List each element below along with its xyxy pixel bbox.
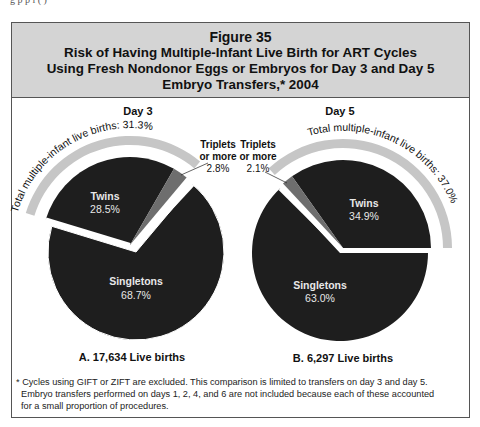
day5-singletons-value: 63.0% xyxy=(305,292,335,304)
day5-triplets-value: 2.1% xyxy=(247,163,270,174)
footnote: * Cycles using GIFT or ZIFT are excluded… xyxy=(16,376,436,412)
day3-triplets-name-1: Triplets xyxy=(200,139,236,150)
footnote-line-3: for a small proportion of procedures. xyxy=(16,400,436,412)
day5-twins-name: Twins xyxy=(350,197,379,209)
day5-caption: B. 6,297 Live births xyxy=(293,352,393,364)
pie-day3: Day 3 Total multiple-infant live births:… xyxy=(8,105,237,363)
footnote-line-1: * Cycles using GIFT or ZIFT are excluded… xyxy=(16,376,436,388)
day3-singletons-name: Singletons xyxy=(109,275,163,287)
day3-twins-value: 28.5% xyxy=(90,203,120,215)
day5-singletons-name: Singletons xyxy=(293,279,347,291)
day3-caption: A. 17,634 Live births xyxy=(79,351,185,363)
day3-label: Day 3 xyxy=(123,105,152,117)
day3-triplets-name-2: or more xyxy=(199,151,237,162)
day3-singletons-value: 68.7% xyxy=(121,289,151,301)
day5-triplets-name-1: Triplets xyxy=(240,139,276,150)
day5-twins-value: 34.9% xyxy=(349,210,379,222)
day5-triplets-name-2: or more xyxy=(239,151,277,162)
day3-triplets-value: 2.8% xyxy=(207,163,230,174)
pie-day5: Day 5 Total multiple-infant live births:… xyxy=(239,105,460,364)
footnote-line-2: Embryo transfers performed on days 1, 2,… xyxy=(16,388,436,400)
day3-twins-name: Twins xyxy=(91,190,120,202)
pie-charts: Day 3 Total multiple-infant live births:… xyxy=(0,0,480,427)
day5-label: Day 5 xyxy=(325,105,354,117)
